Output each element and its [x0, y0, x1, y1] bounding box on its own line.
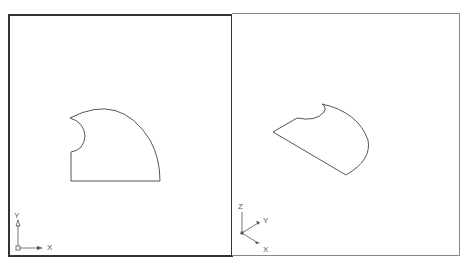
drawing-canvas — [0, 0, 467, 267]
profile-shape-top-view[interactable] — [70, 109, 160, 181]
ucs-icon-3d — [241, 212, 261, 244]
profile-shape-isometric-view[interactable] — [273, 104, 369, 175]
axis-label-y: Y — [14, 212, 19, 220]
ucs-icon-2d — [16, 220, 43, 250]
axis-label-x: X — [47, 244, 52, 252]
axis-label-x: X — [263, 246, 268, 254]
axis-label-y: Y — [263, 217, 268, 225]
axis-label-z: Z — [238, 203, 243, 211]
